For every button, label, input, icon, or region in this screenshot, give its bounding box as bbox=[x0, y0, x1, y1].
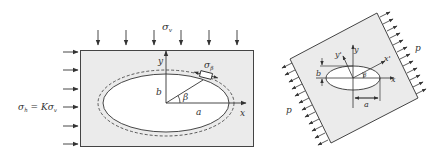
x-prime-label: x' bbox=[384, 54, 391, 63]
p-label-left: p bbox=[286, 105, 292, 115]
vertical-load-arrows bbox=[98, 30, 237, 45]
a-label-right: a bbox=[364, 100, 369, 109]
sigma-v-label: σv bbox=[162, 21, 173, 33]
x-label-right: x bbox=[391, 75, 396, 84]
diagram-canvas: σv σh = Kσv σβ y x b a β bbox=[0, 0, 447, 158]
y-prime-label: y' bbox=[334, 50, 342, 59]
right-panel: p p y y' x' x b a β bbox=[282, 12, 426, 145]
sigma-h-label: σh = Kσv bbox=[18, 102, 58, 113]
y-label-right: y bbox=[353, 45, 359, 54]
y-axis-label: y bbox=[157, 56, 164, 66]
beta-label-right: β bbox=[362, 71, 367, 79]
b-label: b bbox=[156, 87, 162, 97]
left-panel: σv σh = Kσv σβ y x b a β bbox=[18, 21, 254, 147]
a-label: a bbox=[196, 107, 201, 117]
x-axis-label: x bbox=[240, 108, 245, 118]
beta-label: β bbox=[182, 92, 188, 102]
horizontal-load-arrows bbox=[63, 52, 78, 144]
p-label-right: p bbox=[415, 43, 421, 53]
b-label-right: b bbox=[316, 69, 321, 78]
